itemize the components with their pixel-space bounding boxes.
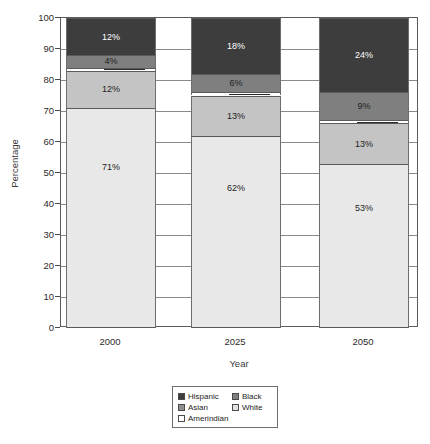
legend-item[interactable]: Black <box>232 392 280 401</box>
legend-swatch-icon <box>178 415 185 422</box>
bar-segment-label: 24% <box>319 50 409 60</box>
bar-segment-label: 53% <box>319 203 409 213</box>
y-tick-label: 10 <box>20 291 54 302</box>
legend-swatch-icon <box>232 393 239 400</box>
chart-figure: Percentage Year 0102030405060708090100 7… <box>0 0 430 444</box>
legend-label: Black <box>242 392 262 401</box>
legend-item[interactable]: White <box>232 403 280 412</box>
y-tick-label: 100 <box>20 12 54 23</box>
bar-segment[interactable] <box>191 136 281 328</box>
bar-segment-label: 4% <box>66 56 156 66</box>
legend-label: White <box>242 403 262 412</box>
callout-leader-line <box>104 69 145 70</box>
bar-stack[interactable]: 53%13%1%9%24% <box>319 18 409 326</box>
bar-segment[interactable] <box>319 164 409 328</box>
legend-swatch-icon <box>178 404 185 411</box>
y-axis-tick-labels: 0102030405060708090100 <box>20 0 54 444</box>
bar-segment-label: 62% <box>191 183 281 193</box>
bar-segment[interactable] <box>66 108 156 328</box>
bar-stack[interactable]: 71%12%1%4%12% <box>66 18 156 326</box>
x-tick-label: 2025 <box>175 336 295 347</box>
y-axis-title: Percentage <box>9 124 20 204</box>
y-tick-label: 40 <box>20 198 54 209</box>
y-tick-label: 80 <box>20 74 54 85</box>
legend-swatch-icon <box>232 404 239 411</box>
legend-item[interactable]: Asian <box>178 403 232 412</box>
legend-label: Amerindian <box>188 414 228 423</box>
y-tick-label: 90 <box>20 43 54 54</box>
legend-item[interactable]: Amerindian <box>178 414 232 423</box>
x-tick-label: 2000 <box>50 336 170 347</box>
bar-segment-label: 6% <box>191 78 281 88</box>
y-tick-label: 70 <box>20 105 54 116</box>
bar-segment-label: 13% <box>319 139 409 149</box>
legend-item[interactable]: Hispanic <box>178 392 232 401</box>
bar-segment-label: 13% <box>191 111 281 121</box>
callout-leader-line <box>357 122 398 123</box>
x-tick-label: 2050 <box>303 336 423 347</box>
bar-segment-label: 12% <box>66 32 156 42</box>
y-tick-label: 30 <box>20 229 54 240</box>
plot-area: 71%12%1%4%12%62%13%1%6%18%53%13%1%9%24% <box>60 17 418 327</box>
y-tick-label: 60 <box>20 136 54 147</box>
legend-label: Asian <box>188 403 208 412</box>
legend-label: Hispanic <box>188 392 219 401</box>
bar-segment-label: 9% <box>319 101 409 111</box>
y-tick-label: 0 <box>20 322 54 333</box>
bar-segment-label: 71% <box>66 162 156 172</box>
bar-stack[interactable]: 62%13%1%6%18% <box>191 18 281 326</box>
y-tick-label: 20 <box>20 260 54 271</box>
callout-leader-line <box>229 94 270 95</box>
legend-grid: HispanicBlackAsianWhiteAmerindian <box>178 391 272 424</box>
bar-segment-label: 18% <box>191 41 281 51</box>
legend-swatch-icon <box>178 393 185 400</box>
bar-segment-label: 12% <box>66 84 156 94</box>
y-tick-label: 50 <box>20 167 54 178</box>
chart-legend: HispanicBlackAsianWhiteAmerindian <box>172 386 278 428</box>
x-axis-title: Year <box>60 358 418 369</box>
